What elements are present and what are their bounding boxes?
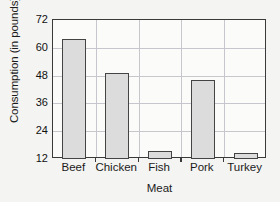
x-axis-tick-label: Pork	[190, 161, 214, 173]
plot-area	[52, 19, 266, 158]
gridline-vertical	[224, 20, 225, 157]
gridline-vertical	[181, 20, 182, 157]
x-axis-tick-label: Turkey	[227, 161, 262, 173]
x-axis-tick-label: Chicken	[95, 161, 137, 173]
bar-chart: Consumption (in pounds) 122436486072 Bee…	[0, 0, 280, 202]
y-axis-tick-label: 12	[10, 152, 48, 164]
gridline-vertical	[96, 20, 97, 157]
bar	[148, 151, 172, 159]
x-axis-tick-mark	[95, 158, 96, 162]
x-axis-tick-label: Beef	[62, 161, 86, 173]
x-axis-tick-label: Fish	[148, 161, 170, 173]
bar	[191, 80, 215, 159]
y-axis-title: Consumption (in pounds)	[8, 0, 26, 135]
x-axis-title: Meat	[52, 182, 267, 194]
gridline-vertical	[139, 20, 140, 157]
bar	[105, 73, 129, 159]
x-axis-tick-mark	[180, 158, 181, 162]
bar	[234, 153, 258, 159]
bar	[62, 39, 86, 159]
x-axis-tick-mark	[138, 158, 139, 162]
x-axis-tick-mark	[223, 158, 224, 162]
